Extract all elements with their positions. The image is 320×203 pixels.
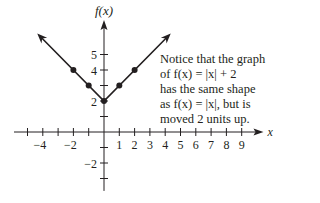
x-tick-label: 4	[162, 138, 168, 152]
data-point	[70, 67, 76, 73]
x-tick-label: 3	[147, 138, 153, 152]
note-line-5: moved 2 units up.	[160, 112, 288, 127]
y-tick-label: 5	[91, 48, 97, 62]
x-tick-label: 7	[208, 138, 214, 152]
note-line-4: as f(x) = |x|, but is	[160, 97, 288, 112]
x-tick-label: 5	[178, 138, 184, 152]
x-tick-label: 8	[223, 138, 229, 152]
x-tick-label: 9	[239, 138, 245, 152]
y-axis-label: f(x)	[95, 3, 113, 18]
y-tick-label: 4	[91, 64, 97, 78]
note-line-3: has the same shape	[160, 82, 288, 97]
y-tick-label: −2	[84, 157, 97, 171]
x-tick-label: 6	[193, 138, 199, 152]
x-tick-label: 1	[116, 138, 122, 152]
data-point	[86, 83, 92, 89]
data-point	[101, 98, 107, 104]
x-axis-label: x	[266, 125, 273, 139]
data-point	[116, 83, 122, 89]
x-tick-label: −4	[33, 138, 46, 152]
data-point	[132, 67, 138, 73]
annotation-note: Notice that the graph of f(x) = |x| + 2 …	[160, 52, 288, 127]
y-tick-label: 2	[91, 95, 97, 109]
note-line-1: Notice that the graph	[160, 52, 288, 67]
x-tick-label: 2	[132, 138, 138, 152]
x-tick-label: −2	[64, 138, 77, 152]
note-line-2: of f(x) = |x| + 2	[160, 67, 288, 82]
